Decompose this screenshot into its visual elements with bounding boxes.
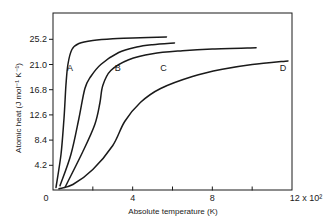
plot-frame [53,13,292,190]
y-tick-label: 12.6 [29,110,47,120]
curve-d [59,61,288,189]
y-axis-ticks: 4.28.412.616.821.025.2 [29,34,53,170]
curve-label-b: B [115,63,121,73]
y-axis-title: Atomic heat (J mol⁻¹ K⁻¹) [14,63,23,153]
y-tick-label: 8.4 [34,135,47,145]
y-tick-label: 16.8 [29,85,47,95]
curves [56,37,288,189]
y-tick-label: 25.2 [29,34,47,44]
y-tick-label: 21.0 [29,60,47,70]
curve-a [56,37,167,188]
x-tick-label: 4 [130,193,135,203]
origin-label: 0 [43,193,48,203]
x-axis-title: Absolute temperature (K) [128,207,218,216]
x-tick-label: 12 x 10² [290,193,323,203]
y-tick-label: 4.2 [34,160,47,170]
curve-label-d: D [280,63,287,73]
curve-label-c: C [160,63,167,73]
curve-label-a: A [67,63,73,73]
chart: 4.28.412.616.821.025.2 4812 x 10² ABCD 0… [0,0,333,224]
x-axis-ticks: 4812 x 10² [93,187,322,204]
x-tick-label: 8 [210,193,215,203]
